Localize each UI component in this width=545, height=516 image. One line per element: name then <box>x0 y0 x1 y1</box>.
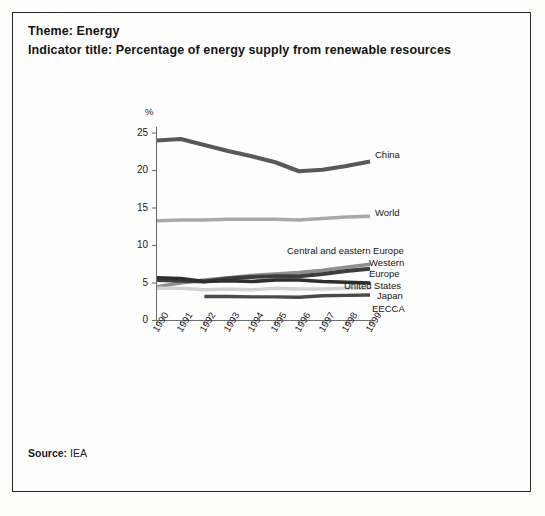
source-value: IEA <box>67 447 87 459</box>
series-label-central-and-eastern-europe: Central and eastern Europe <box>287 246 404 257</box>
y-tick-label: 10 <box>126 239 148 250</box>
series-line-eecca <box>204 295 370 297</box>
page-root: Theme: Energy Indicator title: Percentag… <box>0 0 545 516</box>
series-label-eecca: EECCA <box>372 304 405 315</box>
source-note: Source: IEA <box>28 447 87 459</box>
y-tick-label: 25 <box>126 127 148 138</box>
source-label: Source: <box>28 447 67 459</box>
series-line-china <box>157 139 370 171</box>
y-tick-label: 15 <box>126 202 148 213</box>
y-tick-label: 20 <box>126 164 148 175</box>
series-line-world <box>157 216 370 221</box>
y-tick-label: 5 <box>126 277 148 288</box>
series-label-japan: Japan <box>377 291 403 302</box>
chart-canvas <box>0 0 545 516</box>
series-label-world: World <box>375 208 400 219</box>
line-chart: %051015202519901991199219931994199519961… <box>0 0 545 516</box>
y-tick-label: 0 <box>126 314 148 325</box>
series-line-japan <box>157 288 370 290</box>
y-axis-unit-label: % <box>145 106 153 117</box>
series-label-western-europe: Western Europe <box>369 258 404 279</box>
series-label-china: China <box>375 150 400 161</box>
